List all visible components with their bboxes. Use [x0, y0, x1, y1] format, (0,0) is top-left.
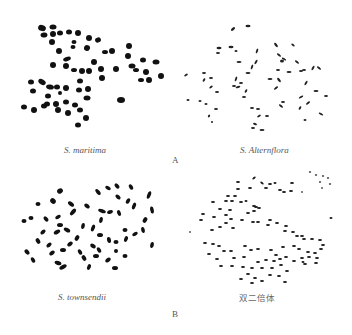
chromosome — [289, 190, 293, 192]
chromosome — [109, 48, 115, 54]
chromosome — [187, 99, 190, 101]
chromosome — [114, 240, 119, 244]
chromosome — [50, 31, 56, 37]
chromosome — [314, 262, 318, 264]
chromosome — [232, 257, 236, 259]
chromosome — [244, 89, 248, 93]
chromosome — [235, 50, 238, 52]
chromosome — [237, 61, 242, 63]
chromosome — [115, 194, 122, 201]
chromosome — [114, 183, 121, 190]
chromosome — [55, 107, 61, 113]
chromosome — [268, 78, 273, 80]
chromosome — [63, 63, 69, 69]
caption-s-townsendii: S. townsendii — [58, 292, 106, 302]
chromosome — [107, 237, 112, 244]
chromosome — [322, 175, 324, 177]
chromosome — [242, 96, 246, 98]
chromosome — [76, 88, 82, 93]
chromosome — [273, 42, 278, 47]
chromosome — [230, 26, 235, 31]
chromosome — [315, 257, 319, 259]
chromosome — [246, 25, 251, 27]
chromosome — [245, 200, 248, 202]
chromosome — [21, 105, 27, 110]
chromosome — [260, 181, 264, 185]
chromosome — [79, 68, 85, 74]
chromosome — [254, 206, 258, 208]
panel-a-right-spread — [184, 25, 328, 131]
chromosome — [224, 200, 228, 202]
chromosome — [90, 224, 96, 232]
chromosome — [146, 77, 152, 83]
chromosome — [230, 200, 234, 202]
chromosome — [63, 227, 71, 234]
chromosome — [138, 78, 144, 82]
chromosome — [69, 208, 77, 217]
chromosome — [254, 59, 258, 64]
chromosome — [229, 218, 233, 220]
chromosome — [256, 108, 260, 110]
chromosome — [298, 95, 303, 99]
chromosome — [292, 245, 296, 247]
chromosome — [207, 253, 211, 255]
chromosome — [309, 171, 311, 173]
chromosome — [36, 202, 41, 206]
chromosome — [129, 64, 136, 69]
chromosome — [35, 237, 41, 244]
chromosome — [202, 72, 206, 74]
chromosome — [63, 85, 69, 91]
chromosome — [49, 39, 55, 45]
chromosome — [216, 52, 220, 54]
chromosome — [224, 214, 228, 216]
chromosome — [205, 103, 208, 105]
chromosome — [234, 76, 238, 81]
chromosome — [203, 242, 207, 244]
chromosome — [56, 48, 62, 54]
chromosome — [50, 25, 57, 30]
chromosome — [117, 97, 125, 103]
chromosome — [282, 191, 286, 193]
chromosome — [239, 82, 243, 84]
chromosome — [214, 108, 218, 110]
chromosome — [272, 260, 276, 262]
chromosome — [123, 236, 128, 243]
chromosome — [285, 270, 289, 272]
chromosome — [302, 238, 306, 240]
chromosome — [246, 212, 250, 214]
chromosome — [48, 250, 55, 257]
chromosome — [128, 184, 134, 191]
chromosome — [123, 228, 128, 232]
chromosome — [276, 77, 281, 82]
panel-b-right-spread — [189, 171, 333, 284]
chromosome — [60, 248, 66, 252]
chromosome — [260, 280, 264, 282]
chromosome — [98, 66, 104, 72]
chromosome — [277, 275, 281, 277]
chromosome — [266, 224, 270, 226]
chromosome — [125, 198, 131, 205]
chromosome — [251, 127, 255, 129]
chromosome — [146, 191, 152, 200]
chromosome — [29, 216, 34, 220]
chromosome — [217, 47, 222, 49]
chromosome — [75, 30, 81, 36]
chromosome — [290, 182, 294, 184]
chromosome — [45, 94, 51, 99]
chromosome — [222, 250, 226, 252]
chromosome — [40, 32, 48, 38]
chromosome — [264, 187, 268, 189]
chromosome — [215, 258, 219, 260]
chromosome — [319, 181, 321, 183]
chromosome — [311, 65, 315, 70]
chromosome — [81, 223, 86, 230]
chromosome — [300, 257, 304, 259]
chromosome — [321, 244, 325, 246]
chromosome — [58, 91, 62, 95]
chromosome — [66, 30, 72, 35]
chromosome — [278, 189, 282, 191]
chromosome — [41, 104, 47, 109]
chromosome — [278, 104, 283, 109]
chromosome — [302, 69, 306, 71]
chromosome — [226, 195, 230, 197]
